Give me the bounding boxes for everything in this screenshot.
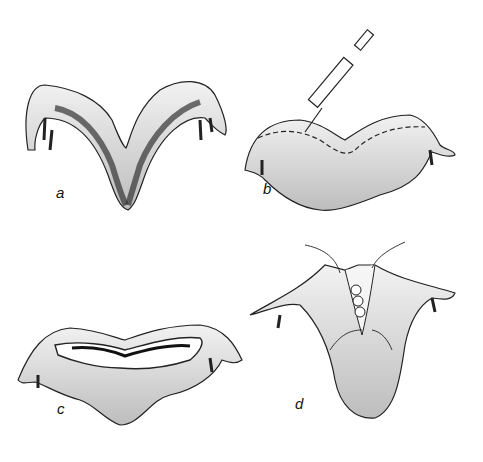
panel-label-c: c [57, 400, 65, 417]
figure-canvas [0, 0, 483, 462]
syringe-icon [305, 30, 373, 132]
panel-d-illustration [250, 242, 455, 418]
panel-label-d: d [295, 395, 303, 412]
panel-c-illustration [18, 325, 242, 425]
panel-label-b: b [263, 180, 271, 197]
panel-label-a: a [56, 184, 64, 201]
panel-b-illustration [245, 30, 455, 211]
